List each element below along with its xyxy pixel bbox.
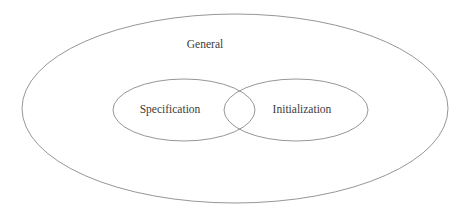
- label-initialization: Initialization: [273, 103, 332, 115]
- label-general: General: [187, 38, 223, 50]
- venn-diagram-svg: General Specification Initialization: [0, 0, 471, 215]
- ellipse-general: [22, 14, 448, 203]
- venn-diagram-canvas: General Specification Initialization: [0, 0, 471, 215]
- label-specification: Specification: [140, 103, 201, 116]
